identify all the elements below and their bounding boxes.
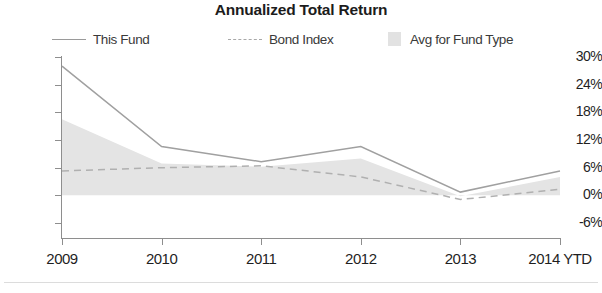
plot-area <box>0 0 602 293</box>
footer-divider <box>4 282 598 283</box>
annualized-total-return-chart: Annualized Total Return This Fund Bond I… <box>0 0 602 293</box>
avg-for-fund-type-area <box>62 119 560 196</box>
